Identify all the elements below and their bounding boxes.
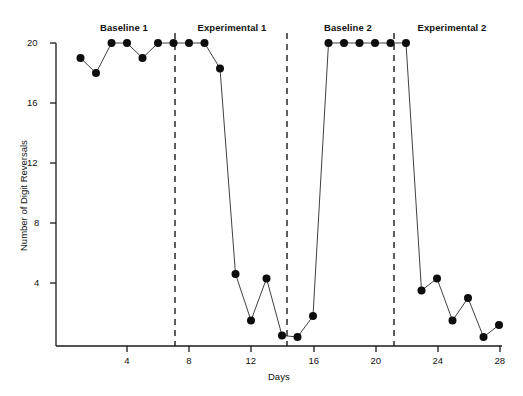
data-point-marker [216, 65, 224, 73]
data-point-marker [108, 39, 116, 47]
data-point-marker [433, 275, 441, 283]
data-point-marker [92, 69, 100, 77]
data-point-marker [139, 54, 147, 62]
data-point-marker [263, 275, 271, 283]
data-point-marker [464, 294, 472, 302]
y-axis-tick-label: 4 [34, 277, 39, 288]
series-segment-line [298, 43, 391, 337]
data-point-marker [201, 39, 209, 47]
data-point-marker [418, 287, 426, 295]
data-point-marker [356, 39, 364, 47]
y-axis-ticks [50, 43, 56, 283]
data-point-marker [340, 39, 348, 47]
data-point-marker [371, 39, 379, 47]
data-point-marker [232, 270, 240, 278]
y-axis-tick-label: 20 [27, 37, 38, 48]
phase-label-experimental-2: Experimental 2 [418, 22, 487, 33]
phase-divider-lines [175, 33, 394, 346]
x-axis-ticks [127, 346, 500, 352]
axis-lines [56, 43, 502, 346]
data-point-marker [154, 39, 162, 47]
line-chart-canvas [0, 0, 523, 396]
data-point-marker [480, 333, 488, 341]
data-point-marker [77, 54, 85, 62]
data-series-markers [77, 39, 504, 341]
data-point-marker [185, 39, 193, 47]
data-point-marker [278, 332, 286, 340]
phase-label-experimental-1: Experimental 1 [198, 22, 267, 33]
x-axis-tick-label: 28 [494, 355, 505, 366]
x-axis-tick-label: 4 [124, 355, 129, 366]
y-axis-tick-label: 16 [27, 97, 38, 108]
data-point-marker [247, 317, 255, 325]
series-segment-line [189, 43, 282, 336]
series-segment-line [81, 43, 174, 73]
x-axis-title: Days [268, 371, 290, 382]
data-point-marker [387, 39, 395, 47]
data-point-marker [170, 39, 178, 47]
x-axis-tick-label: 24 [432, 355, 443, 366]
data-point-marker [495, 321, 503, 329]
x-axis-tick-label: 16 [308, 355, 319, 366]
phase-label-baseline-2: Baseline 2 [324, 22, 372, 33]
data-point-marker [402, 39, 410, 47]
x-axis-tick-label: 20 [370, 355, 381, 366]
data-point-marker [123, 39, 131, 47]
y-axis-tick-label: 8 [34, 217, 39, 228]
data-point-marker [449, 317, 457, 325]
data-point-marker [294, 333, 302, 341]
phase-label-baseline-1: Baseline 1 [100, 22, 148, 33]
x-axis-tick-label: 8 [186, 355, 191, 366]
data-series-line [81, 43, 500, 337]
data-point-marker [325, 39, 333, 47]
data-point-marker [309, 312, 317, 320]
chart-figure: Baseline 1Experimental 1Baseline 2Experi… [0, 0, 523, 396]
y-axis-title: Number of Digit Reversals [18, 140, 29, 251]
x-axis-tick-label: 12 [245, 355, 256, 366]
